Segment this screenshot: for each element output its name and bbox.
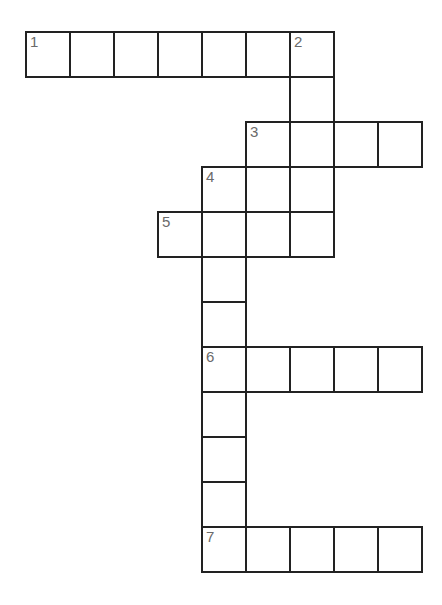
- crossword-cell[interactable]: [289, 121, 335, 168]
- crossword-cell[interactable]: [201, 256, 247, 303]
- crossword-cell[interactable]: 6: [201, 346, 247, 393]
- crossword-cell[interactable]: [377, 526, 423, 573]
- crossword-cell[interactable]: [201, 391, 247, 438]
- clue-number: 1: [30, 34, 38, 49]
- crossword-cell[interactable]: 1: [25, 31, 71, 78]
- crossword-cell[interactable]: [289, 211, 335, 258]
- crossword-cell[interactable]: [113, 31, 159, 78]
- crossword-cell[interactable]: [157, 31, 203, 78]
- crossword-cell[interactable]: 5: [157, 211, 203, 258]
- clue-number: 4: [206, 169, 214, 184]
- clue-number: 3: [250, 124, 258, 139]
- crossword-cell[interactable]: [289, 76, 335, 123]
- crossword-cell[interactable]: 2: [289, 31, 335, 78]
- crossword-cell[interactable]: [245, 211, 291, 258]
- clue-number: 2: [294, 34, 302, 49]
- crossword-cell[interactable]: [377, 121, 423, 168]
- crossword-cell[interactable]: [69, 31, 115, 78]
- crossword-cell[interactable]: [245, 346, 291, 393]
- crossword-cell[interactable]: [333, 346, 379, 393]
- clue-number: 7: [206, 529, 214, 544]
- crossword-cell[interactable]: [289, 166, 335, 213]
- crossword-cell[interactable]: [201, 31, 247, 78]
- crossword-cell[interactable]: [333, 121, 379, 168]
- crossword-cell[interactable]: [201, 301, 247, 348]
- crossword-cell[interactable]: [201, 481, 247, 528]
- crossword-cell[interactable]: [333, 526, 379, 573]
- crossword-cell[interactable]: [289, 526, 335, 573]
- crossword-cell[interactable]: 3: [245, 121, 291, 168]
- crossword-cell[interactable]: [201, 211, 247, 258]
- crossword-grid: 1234675: [0, 0, 442, 605]
- crossword-cell[interactable]: [245, 526, 291, 573]
- crossword-cell[interactable]: 7: [201, 526, 247, 573]
- clue-number: 6: [206, 349, 214, 364]
- clue-number: 5: [162, 214, 170, 229]
- crossword-cell[interactable]: [289, 346, 335, 393]
- crossword-cell[interactable]: 4: [201, 166, 247, 213]
- crossword-cell[interactable]: [377, 346, 423, 393]
- crossword-cell[interactable]: [245, 31, 291, 78]
- crossword-cell[interactable]: [201, 436, 247, 483]
